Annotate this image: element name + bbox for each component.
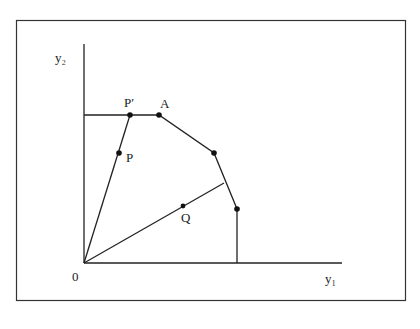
point-q [181, 204, 186, 209]
label-p-prime: P′ [124, 95, 134, 110]
label-q: Q [181, 210, 191, 225]
frontier-kink-point [211, 150, 217, 156]
y-axis-label: y₂ [55, 50, 66, 65]
label-p: P [126, 150, 133, 165]
point-a [156, 112, 162, 118]
frontier-corner-point [234, 206, 240, 212]
point-p-prime [127, 112, 133, 118]
diagram-canvas: y₂ y₁ 0 P′ A P Q [0, 0, 420, 329]
point-p [116, 150, 122, 156]
origin-label: 0 [72, 269, 79, 284]
label-a: A [160, 96, 170, 111]
frame-border [17, 21, 406, 301]
x-axis-label: y₁ [325, 271, 336, 286]
